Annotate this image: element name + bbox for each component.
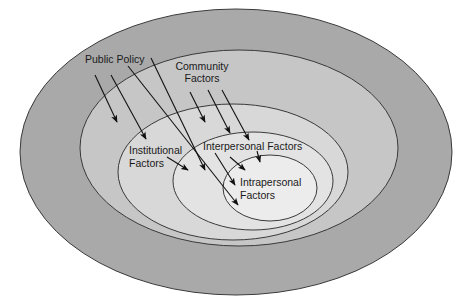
label-community-line1: Community <box>175 60 229 72</box>
label-community-line2: Factors <box>184 72 219 84</box>
label-institutional-line2: Factors <box>129 157 164 169</box>
ring-intrapersonal <box>223 155 317 221</box>
label-public-policy: Public Policy <box>85 53 145 65</box>
label-intrapersonal-line1: Intrapersonal <box>240 176 301 188</box>
label-intrapersonal-line2: Factors <box>240 189 275 201</box>
nested-rings <box>20 9 452 295</box>
label-interpersonal: Interpersonal Factors <box>203 140 302 152</box>
social-ecological-diagram: Public Policy Community Factors Institut… <box>0 0 464 307</box>
label-institutional-line1: Institutional <box>129 144 182 156</box>
